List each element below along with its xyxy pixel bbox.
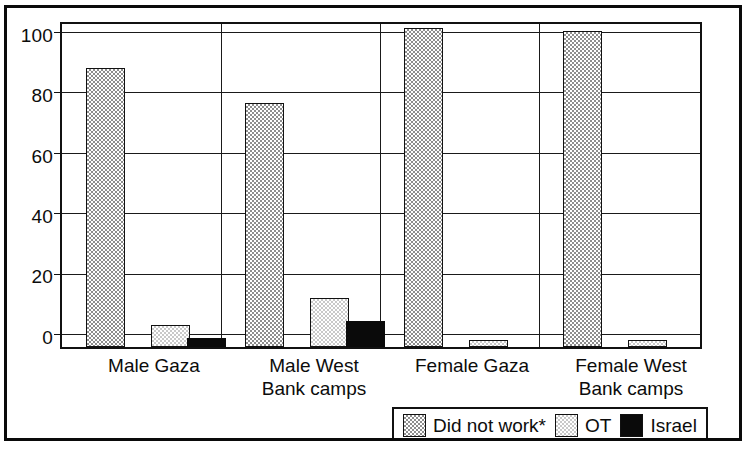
bar-female-gaza-did-not-work[interactable] [404,28,443,347]
y-axis-labels: 100 80 60 40 20 0 [7,22,53,349]
bar-male-west-bank-ot[interactable] [310,298,349,347]
y-tick-100 [54,32,61,33]
y-tick-60 [54,153,61,154]
legend-swatch-did-not-work-icon [403,414,426,437]
category-label-female-gaza: Female Gaza [398,354,546,377]
legend-swatch-israel-icon [620,414,643,437]
category-label-male-gaza: Male Gaza [80,354,228,377]
bar-female-gaza-ot[interactable] [469,340,508,347]
plot-area [60,22,702,349]
bar-male-gaza-did-not-work[interactable] [86,68,125,347]
y-tick-label-0: 0 [42,328,53,347]
bar-male-gaza-ot[interactable] [151,325,190,347]
legend-label-israel: Israel [650,416,696,435]
category-separator-1 [221,24,222,347]
bar-male-gaza-israel[interactable] [187,338,226,347]
legend-swatch-ot-icon [555,414,578,437]
y-tick-label-60: 60 [31,147,53,166]
gridline-60 [62,153,700,154]
gridline-40 [62,213,700,214]
category-separator-2 [380,24,381,347]
bar-female-west-bank-did-not-work[interactable] [563,31,602,347]
legend-entry-did-not-work[interactable]: Did not work* [403,414,546,437]
y-tick-40 [54,213,61,214]
category-label-male-west-bank-camps: Male West Bank camps [240,354,388,400]
legend-label-did-not-work: Did not work* [433,416,546,435]
figure-frame: 100 80 60 40 20 0 [4,5,742,441]
y-tick-label-100: 100 [21,26,53,45]
legend-entry-israel[interactable]: Israel [620,414,696,437]
y-tick-0 [54,334,61,335]
bar-male-west-bank-israel[interactable] [346,321,385,347]
gridline-20 [62,274,700,275]
y-tick-label-80: 80 [31,86,53,105]
category-separator-3 [539,24,540,347]
y-tick-label-20: 20 [31,267,53,286]
y-tick-80 [54,92,61,93]
y-tick-20 [54,274,61,275]
y-tick-label-40: 40 [31,207,53,226]
x-axis-category-labels: Male Gaza Male West Bank camps Female Ga… [60,354,702,402]
legend-label-ot: OT [585,416,611,435]
bar-female-west-bank-ot[interactable] [628,340,667,347]
chart-legend: Did not work* OT Israel [392,407,708,441]
gridline-100 [62,32,700,33]
category-label-female-west-bank-camps: Female West Bank camps [557,354,705,400]
gridline-80 [62,92,700,93]
legend-entry-ot[interactable]: OT [555,414,611,437]
bar-male-west-bank-did-not-work[interactable] [245,103,284,347]
